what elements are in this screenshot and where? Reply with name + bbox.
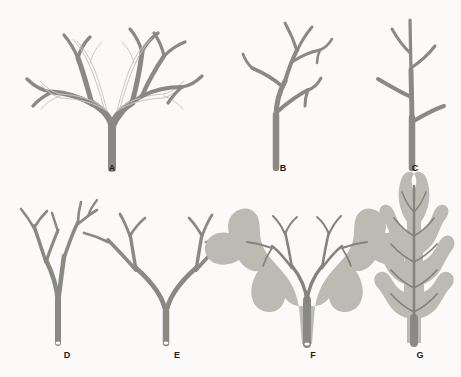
specimen-b-drawing bbox=[243, 23, 332, 168]
cut-base-f bbox=[304, 342, 309, 345]
specimen-label-e: E bbox=[167, 350, 187, 360]
specimen-illustrations: .st{fill:none;stroke:#8a8a85;stroke-line… bbox=[0, 0, 461, 377]
specimen-g-drawing bbox=[374, 172, 455, 343]
cut-base-d bbox=[56, 341, 61, 344]
specimen-c-drawing bbox=[378, 20, 444, 168]
specimen-label-g: G bbox=[410, 350, 430, 360]
figure-plate: .st{fill:none;stroke:#8a8a85;stroke-line… bbox=[0, 0, 461, 377]
cut-base-e bbox=[164, 341, 169, 344]
specimen-label-d: D bbox=[57, 350, 77, 360]
specimen-label-a: A bbox=[102, 163, 122, 173]
specimen-label-f: F bbox=[303, 350, 323, 360]
specimen-d-drawing bbox=[21, 200, 97, 345]
specimen-label-c: C bbox=[405, 163, 425, 173]
specimen-a-drawing bbox=[27, 29, 202, 168]
specimen-label-b: B bbox=[273, 163, 293, 173]
